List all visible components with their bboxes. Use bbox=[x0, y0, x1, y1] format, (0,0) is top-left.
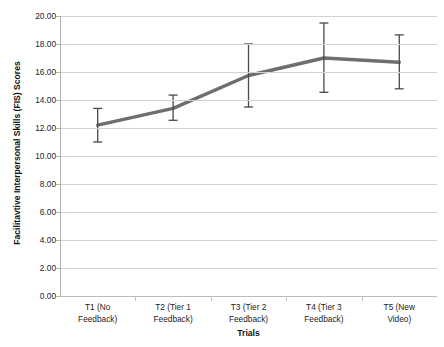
gridline bbox=[60, 100, 437, 101]
y-tick-mark bbox=[56, 44, 61, 45]
x-tick-mark bbox=[286, 296, 287, 301]
chart-figure: Facilitavtive Interpersonal Skills (FIS)… bbox=[0, 0, 444, 347]
y-tick-mark bbox=[56, 212, 61, 213]
x-tick-mark bbox=[211, 296, 212, 301]
y-tick-label: 4.00 bbox=[16, 236, 56, 244]
y-tick-label: 0.00 bbox=[16, 292, 56, 300]
y-axis-tick-labels: 20.0018.0016.0014.0012.0010.008.006.004.… bbox=[14, 0, 56, 347]
gridline bbox=[60, 16, 437, 17]
y-tick-label: 16.00 bbox=[16, 68, 56, 76]
x-tick-mark bbox=[135, 296, 136, 301]
y-tick-mark bbox=[56, 16, 61, 17]
y-tick-label: 18.00 bbox=[16, 40, 56, 48]
x-tick-label-line: T5 (New bbox=[354, 302, 444, 314]
y-tick-mark bbox=[56, 240, 61, 241]
gridline bbox=[60, 296, 437, 297]
y-tick-label: 14.00 bbox=[16, 96, 56, 104]
gridline bbox=[60, 72, 437, 73]
y-tick-mark bbox=[56, 184, 61, 185]
y-tick-mark bbox=[56, 72, 61, 73]
y-tick-label: 20.00 bbox=[16, 12, 56, 20]
gridline bbox=[60, 184, 437, 185]
gridline bbox=[60, 44, 437, 45]
y-tick-label: 8.00 bbox=[16, 180, 56, 188]
y-tick-label: 2.00 bbox=[16, 264, 56, 272]
y-tick-label: 6.00 bbox=[16, 208, 56, 216]
y-tick-mark bbox=[56, 100, 61, 101]
y-tick-mark bbox=[56, 128, 61, 129]
x-tick-label-line: Video) bbox=[354, 314, 444, 326]
x-axis-title: Trials bbox=[60, 328, 437, 338]
gridline bbox=[60, 128, 437, 129]
chart-title bbox=[0, 0, 444, 2]
gridline bbox=[60, 240, 437, 241]
y-tick-mark bbox=[56, 296, 61, 297]
plot-area bbox=[60, 16, 437, 296]
x-tick-label: T5 (NewVideo) bbox=[354, 302, 444, 325]
x-tick-mark bbox=[362, 296, 363, 301]
y-tick-label: 10.00 bbox=[16, 152, 56, 160]
y-tick-mark bbox=[56, 268, 61, 269]
gridline bbox=[60, 212, 437, 213]
y-tick-label: 12.00 bbox=[16, 124, 56, 132]
gridline bbox=[60, 156, 437, 157]
y-tick-mark bbox=[56, 156, 61, 157]
gridline bbox=[60, 268, 437, 269]
